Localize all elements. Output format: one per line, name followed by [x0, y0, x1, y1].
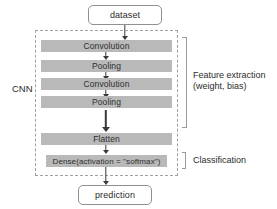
layer-flatten-label: Flatten	[93, 134, 120, 144]
layer-convolution-1-label: Convolution	[84, 41, 130, 51]
layer-dense: Dense(activation = "softmax")	[46, 155, 167, 167]
node-dataset-label: dataset	[110, 10, 140, 20]
feature-extraction-bracket	[182, 37, 187, 128]
layer-convolution-1: Convolution	[41, 40, 172, 52]
layer-flatten: Flatten	[41, 133, 172, 145]
layer-pooling-1: Pooling	[41, 60, 172, 72]
layer-pooling-2-label: Pooling	[92, 97, 121, 107]
layer-pooling-1-label: Pooling	[92, 61, 121, 71]
node-prediction: prediction	[78, 185, 152, 205]
feature-extraction-annotation: Feature extraction (weight, bias)	[193, 70, 277, 92]
cnn-group-label: CNN	[12, 83, 33, 94]
layer-convolution-2: Convolution	[41, 78, 172, 90]
classification-annotation: Classification	[193, 155, 246, 166]
feature-extraction-line-1: Feature extraction	[193, 70, 277, 81]
feature-extraction-line-2: (weight, bias)	[193, 81, 277, 92]
layer-pooling-2: Pooling	[41, 96, 172, 108]
cnn-architecture-diagram: dataset CNN Convolution Pooling Convolut…	[0, 0, 277, 209]
layer-convolution-2-label: Convolution	[84, 79, 130, 89]
classification-bracket	[182, 152, 186, 169]
node-dataset: dataset	[88, 5, 162, 25]
layer-dense-label: Dense(activation = "softmax")	[53, 157, 161, 166]
node-prediction-label: prediction	[95, 190, 135, 200]
